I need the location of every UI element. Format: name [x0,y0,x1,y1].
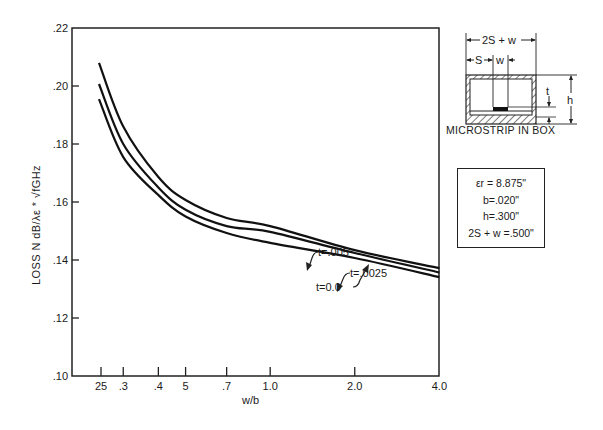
x-tick-label: 5 [183,380,189,392]
dim-t: t [546,85,549,97]
x-tick-label: 4.0 [432,380,447,392]
y-tick-label: .16 [53,196,68,208]
dim-s: S [475,54,482,66]
dim-w: w [495,54,504,66]
microstrip-box-diagram: 2S + w S w h t [466,33,577,124]
x-tick-label: 1.0 [263,380,278,392]
label-t-0: t=0.0 [316,281,341,293]
curve-t-005 [99,63,439,268]
dim-2s-plus-w: 2S + w [482,34,516,46]
label-t-0025: t=.0025 [350,267,387,279]
param-epsilon: εr = 8.875" [476,177,526,189]
y-axis-ticks: .10.12.14.16.18.20.22 [53,22,79,382]
y-axis-label: LOSS N dB/λε * √fGHz [30,165,42,285]
x-tick-label: .7 [222,380,231,392]
x-axis-ticks: 25.3.45.71.02.04.0 [95,367,447,392]
y-tick-label: .14 [53,254,68,266]
param-2s-plus-w: 2S + w =.500" [468,227,534,239]
x-tick-label: 2.0 [347,380,362,392]
param-h: h=.300" [483,210,519,222]
param-b: b=.020" [483,194,519,206]
y-tick-label: .12 [53,312,68,324]
x-tick-label: .3 [119,380,128,392]
dim-h: h [567,94,573,106]
y-tick-label: .20 [53,80,68,92]
curve-t-0025 [99,84,439,273]
x-tick-label: .4 [154,380,163,392]
parameters-box: εr = 8.875" b=.020" h=.300" 2S + w =.500… [457,168,545,248]
x-axis-label: w/b [242,394,259,406]
label-t-005: t=.005 [318,246,349,258]
x-tick-label: 25 [95,380,107,392]
inset-caption: MICROSTRIP IN BOX [446,124,555,136]
y-tick-label: .18 [53,138,68,150]
y-tick-label: .22 [53,22,68,34]
plot-frame [72,28,439,376]
loss-curves [99,63,439,277]
curve-annotations: t=.005 t=.0025 t=0.0 [306,246,387,293]
y-tick-label: .10 [53,370,68,382]
curve-t-0-0 [99,99,439,277]
